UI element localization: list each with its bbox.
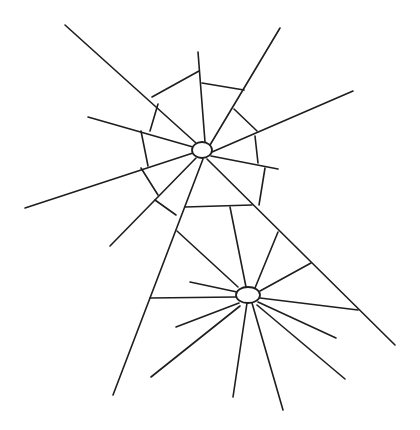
web-strand (190, 282, 237, 292)
web-canvas (0, 0, 420, 430)
web-strand (260, 298, 358, 310)
web-strand (255, 136, 258, 163)
web-strand (150, 104, 158, 131)
web-hub (236, 287, 260, 303)
web-strand (152, 71, 199, 97)
web-strand (202, 83, 244, 90)
web-strand (212, 91, 353, 152)
web-strand (259, 168, 265, 205)
upper-web (25, 25, 353, 395)
web-strand (150, 297, 236, 298)
web-hub (192, 142, 212, 158)
web-strand (207, 159, 395, 345)
web-strand (258, 302, 336, 338)
web-strand (234, 109, 257, 131)
web-strand (198, 52, 205, 142)
web-strand (110, 158, 196, 246)
web-strand (185, 205, 252, 207)
web-strand (151, 306, 240, 377)
web-strand (155, 200, 176, 215)
web-strand (141, 131, 148, 166)
web-strand (211, 156, 278, 169)
web-strand (260, 263, 311, 291)
web-strand (230, 207, 246, 287)
web-strand (141, 168, 158, 195)
web-strand (233, 303, 247, 397)
lower-web (150, 159, 395, 410)
web-strand (25, 153, 193, 208)
web-strand (255, 232, 278, 288)
web-strand (252, 303, 283, 410)
web-strand (177, 231, 238, 287)
spider-web-drawing (0, 0, 420, 430)
